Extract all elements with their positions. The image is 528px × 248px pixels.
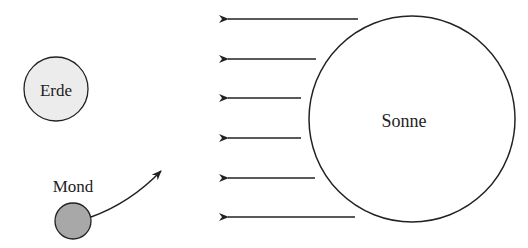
earth-label: Erde	[40, 81, 72, 100]
moon-circle	[55, 203, 91, 239]
moon-label: Mond	[53, 177, 94, 196]
sun: Sonne	[309, 16, 515, 222]
moon: Mond	[53, 171, 161, 239]
sun-label: Sonne	[382, 111, 427, 131]
diagram-canvas: Erde Mond Sonne	[0, 0, 528, 248]
moon-orbit-arrow	[91, 171, 161, 217]
diagram-svg: Erde Mond Sonne	[0, 0, 528, 248]
earth: Erde	[24, 57, 88, 121]
